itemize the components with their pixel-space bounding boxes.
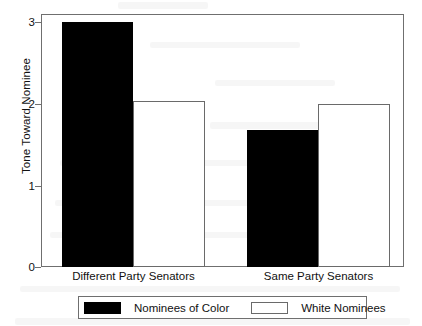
scan-artifact (15, 318, 410, 325)
bar-white-nominees-different-party[interactable] (133, 101, 205, 267)
legend-label-nominees-of-color: Nominees of Color (134, 302, 229, 314)
y-tick-label-3: 3 (22, 16, 35, 28)
bar-nominees-of-color-same-party[interactable] (247, 130, 318, 267)
bar-chart-figure: Tone Toward Nominee 3 2 1 0 Different Pa… (0, 0, 422, 326)
legend-entry-nominees-of-color[interactable]: Nominees of Color (84, 302, 229, 314)
y-tick-label-1: 1 (22, 180, 35, 192)
black-filled-swatch-icon (84, 302, 121, 314)
y-tick-mark-0 (35, 267, 41, 268)
legend-entry-white-nominees[interactable]: White Nominees (251, 302, 385, 314)
bar-nominees-of-color-different-party[interactable] (62, 22, 133, 267)
white-outlined-swatch-icon (251, 302, 288, 314)
y-tick-label-2: 2 (22, 98, 35, 110)
y-axis-title: Tone Toward Nominee (20, 36, 32, 196)
scan-artifact (118, 2, 208, 9)
y-tick-label-0: 0 (22, 261, 35, 273)
x-tick-label-same-party-senators: Same Party Senators (247, 270, 390, 283)
x-tick-label-different-party-senators: Different Party Senators (62, 270, 205, 283)
legend: Nominees of Color White Nominees (78, 296, 367, 319)
plot-area (41, 14, 404, 267)
bar-white-nominees-same-party[interactable] (318, 104, 390, 267)
scan-artifact (20, 286, 400, 292)
legend-label-white-nominees: White Nominees (301, 302, 385, 314)
